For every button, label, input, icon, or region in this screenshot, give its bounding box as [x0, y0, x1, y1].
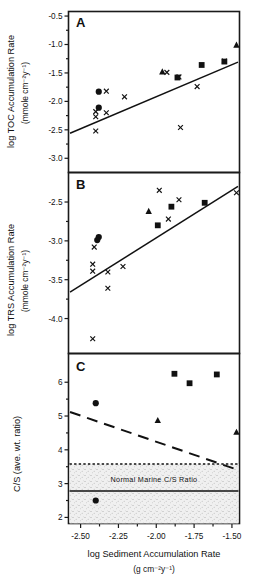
x-tick-label: -2.00 [147, 532, 166, 541]
x-tick-label: -1.75 [185, 532, 204, 541]
y-tick-label: -4.0 [48, 315, 63, 324]
panel-b-ylabel-line2: (mmole cm⁻²y⁻¹) [20, 250, 30, 312]
x-tick-label: -1.50 [223, 532, 242, 541]
data-point-square [172, 371, 178, 377]
band-label-text: Normal Marine C/S Ratio [111, 475, 198, 484]
data-point-square [199, 62, 205, 68]
y-tick-label: -2.5 [48, 126, 63, 135]
data-point-triangle [159, 68, 165, 74]
x-tick-label: -2.50 [71, 532, 90, 541]
data-point-circle [96, 89, 102, 95]
y-tick-label: -3.0 [48, 154, 63, 163]
panel-a-y-axis-title: log TOC Accumulation Rate (mmole cm⁻²y⁻¹… [6, 35, 30, 148]
data-point-circle [96, 105, 102, 111]
y-tick-label: 4 [58, 446, 63, 455]
chart-svg: log TOC Accumulation Rate (mmole cm⁻²y⁻¹… [0, 0, 259, 577]
panel-b-data [70, 186, 239, 341]
y-tick-label: -2.5 [48, 198, 63, 207]
data-point-triangle [146, 208, 152, 214]
y-tick-label: 2 [58, 513, 63, 522]
x-axis-title-group: log Sediment Accumulation Rate (g cm⁻²y⁻… [88, 549, 221, 574]
panel-c-y-axis-title: C/S (ave. wt. ratio) [12, 416, 22, 492]
y-tick-label: 5 [58, 412, 63, 421]
y-tick-label: -0.5 [48, 12, 63, 21]
regression-line-dashed [70, 412, 236, 469]
x-tick-label: -2.25 [109, 532, 128, 541]
band-fill [70, 464, 239, 523]
y-tick-label: 3 [58, 480, 63, 489]
data-point-square [175, 75, 181, 81]
panel-b-ylabel-line1: log TRS Accumulation Rate [6, 224, 16, 336]
panel-b-letter: B [76, 177, 85, 192]
y-tick-label: -1.0 [48, 40, 63, 49]
data-point-square [214, 372, 220, 378]
y-tick-label: -2.0 [48, 97, 63, 106]
figure-root: log TOC Accumulation Rate (mmole cm⁻²y⁻¹… [0, 0, 259, 577]
x-axis-units: (g cm⁻²y⁻¹) [133, 564, 175, 574]
data-point-triangle [155, 417, 161, 423]
data-point-circle [93, 497, 99, 503]
regression-line [70, 62, 238, 133]
panel-a-data [70, 42, 240, 134]
x-axis-title: log Sediment Accumulation Rate [88, 549, 221, 559]
panel-a-ylabel-line1: log TOC Accumulation Rate [6, 35, 16, 148]
data-point-circle [94, 237, 100, 243]
figure-canvas: log TOC Accumulation Rate (mmole cm⁻²y⁻¹… [0, 0, 259, 577]
y-tick-label: -3.5 [48, 276, 63, 285]
panel-a-frame [69, 12, 240, 173]
panel-a-y-ticks: -0.5-1.0-1.5-2.0-2.5-3.0 [48, 12, 68, 163]
y-tick-label: -3.0 [48, 237, 63, 246]
normal-marine-band: Normal Marine C/S Ratio [70, 464, 239, 523]
panel-c-y-ticks: 65432 [58, 378, 69, 522]
data-point-square [187, 380, 193, 386]
data-point-square [155, 222, 161, 228]
data-point-circle [93, 400, 99, 406]
panel-b-y-axis-title: log TRS Accumulation Rate (mmole cm⁻²y⁻¹… [6, 224, 30, 336]
panel-c-letter: C [76, 359, 86, 374]
y-tick-label: 6 [58, 378, 63, 387]
data-point-square [202, 200, 208, 206]
panel-c-ylabel-line1: C/S (ave. wt. ratio) [12, 416, 22, 492]
panel-b-y-ticks: -2.5-3.0-3.5-4.0 [48, 198, 68, 324]
panel-a-ylabel-line2: (mmole cm⁻²y⁻¹) [20, 62, 30, 124]
panel-a-letter: A [76, 15, 86, 30]
y-tick-label: -1.5 [48, 69, 63, 78]
data-point-square [221, 59, 227, 65]
x-axis-ticks: -2.50-2.25-2.00-1.75-1.50 [71, 524, 241, 541]
data-point-square [169, 204, 175, 210]
